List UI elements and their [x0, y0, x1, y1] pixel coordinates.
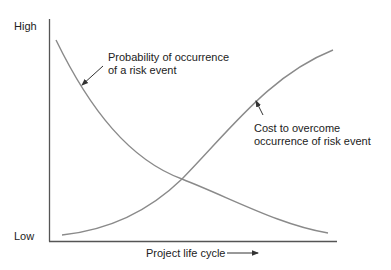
y-label-low: Low — [14, 230, 34, 242]
y-label-high: High — [14, 20, 37, 32]
annotation-probability-line2: of a risk event — [108, 64, 176, 76]
x-axis-label: Project life cycle — [146, 247, 225, 259]
annotation-probability-line1: Probability of occurrence — [108, 51, 229, 63]
probability-arrow-icon — [82, 66, 103, 85]
annotation-cost-line1: Cost to overcome — [254, 122, 340, 134]
annotation-cost-line2: occurrence of risk event — [254, 135, 371, 147]
cost-arrow-icon — [256, 101, 263, 115]
